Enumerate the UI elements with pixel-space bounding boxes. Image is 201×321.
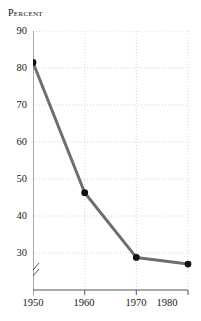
y-tick-label-50: 50 (3, 174, 27, 184)
chart-canvas (33, 31, 198, 306)
data-point-1960[interactable] (81, 189, 88, 196)
y-axis-label: Percent (8, 7, 43, 18)
horizontal-gridlines (33, 31, 188, 253)
y-tick-label-60: 60 (3, 137, 27, 147)
y-tick-label-40: 40 (3, 211, 27, 221)
chart-figure: Percent 90 80 70 60 50 40 30 1950 1960 1… (0, 0, 201, 321)
x-axis-ticks (33, 290, 188, 295)
data-point-1980[interactable] (185, 261, 192, 268)
y-axis-break-icon (33, 263, 39, 282)
y-tick-label-90: 90 (3, 26, 27, 36)
plot-area (33, 31, 188, 290)
data-line-percent (33, 63, 188, 265)
vertical-gridlines (85, 31, 137, 290)
y-tick-label-30: 30 (3, 248, 27, 258)
data-point-1970[interactable] (133, 254, 140, 261)
data-markers (33, 59, 191, 267)
y-tick-label-70: 70 (3, 100, 27, 110)
data-point-1950[interactable] (33, 59, 36, 66)
y-tick-label-80: 80 (3, 63, 27, 73)
